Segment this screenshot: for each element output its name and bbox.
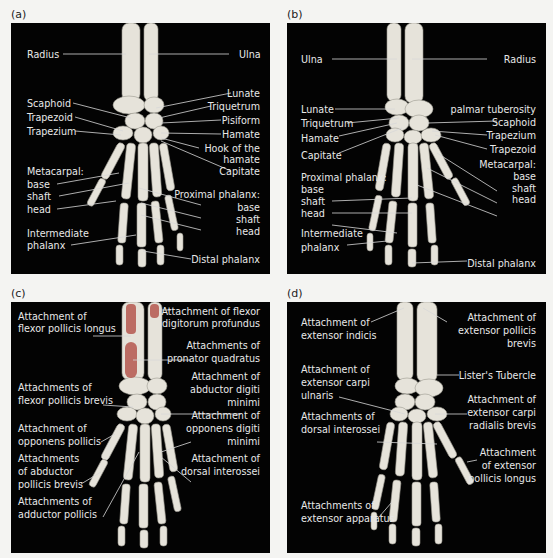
label-di-1: Attachment of	[191, 453, 260, 464]
label-odm-2: opponens digiti	[186, 423, 260, 434]
label-epb-3: brevis	[507, 338, 536, 349]
label-epb-2: extensor pollicis	[458, 325, 536, 336]
label-hook-of-hamate-1: Hook of the	[204, 143, 260, 154]
label-adm-2: abductor digiti	[190, 384, 260, 395]
label-proximal-phalanx: Proximal phalanx:	[174, 189, 260, 200]
label-op-1: Attachment of	[18, 423, 87, 434]
label-metacarpal-head: head	[512, 194, 536, 205]
label-hamate: Hamate	[222, 129, 260, 140]
label-pq-2: pronator quadratus	[167, 353, 260, 364]
label-scaphoid: Scaphoid	[492, 117, 536, 128]
label-ecrb-1: Attachment of	[467, 394, 536, 405]
label-epl-3: pollicis longus	[468, 473, 536, 484]
label-pq-1: Attachments of	[186, 340, 260, 351]
label-proximal-head: head	[236, 226, 260, 237]
label-ei-2: extensor indicis	[301, 330, 376, 341]
label-ecu-3: ulnaris	[301, 390, 333, 401]
label-proximal-head: head	[301, 208, 325, 219]
label-distal-phalanx: Distal phalanx	[191, 254, 260, 265]
label-ecrb-3: radialis brevis	[469, 420, 536, 431]
label-odm-1: Attachment of	[191, 410, 260, 421]
label-trapezium: Trapezium	[27, 126, 76, 137]
label-hook-of-hamate-2: hamate	[223, 154, 260, 165]
label-fpl-2: flexor pollicis longus	[18, 323, 116, 334]
label-ea-1: Attachments of	[301, 500, 375, 511]
label-epb-1: Attachment of	[467, 312, 536, 323]
label-fpl-1: Attachment of	[18, 311, 87, 322]
label-adm-1: Attachment of	[191, 371, 260, 382]
label-intermediate-1: Intermediate	[27, 228, 89, 239]
panel-c-palmar-attachments: Attachment of flexor pollicis longus Att…	[11, 302, 270, 553]
label-di-1: Attachments of	[301, 411, 375, 422]
label-ulna: Ulna	[301, 54, 323, 65]
label-ei-1: Attachment of	[301, 317, 370, 328]
label-metacarpal-base: base	[27, 179, 50, 190]
label-pisiform: Pisiform	[222, 115, 260, 126]
label-proximal-shaft: shaft	[301, 196, 325, 207]
label-ap-1: Attachments of	[18, 496, 92, 507]
label-metacarpal-base: base	[513, 171, 536, 182]
label-proximal-phalanx: Proximal phalanx:	[301, 172, 387, 183]
label-ea-2: extensor apparatus	[301, 513, 395, 524]
label-intermediate-1: Intermediate	[301, 228, 363, 239]
label-apb-2: of abductor	[18, 466, 73, 477]
label-ecrb-2: extensor carpi	[467, 407, 536, 418]
label-odm-3: minimi	[227, 436, 260, 447]
label-metacarpal-shaft: shaft	[512, 183, 536, 194]
label-trapezium: Trapezium	[487, 130, 536, 141]
label-trapezoid: Trapezoid	[27, 112, 73, 123]
label-epl-2: of extensor	[482, 460, 536, 471]
label-hamate: Hamate	[301, 133, 339, 144]
label-op-2: opponens pollicis	[18, 436, 101, 447]
label-ecu-1: Attachment of	[301, 364, 370, 375]
label-apb-1: Attachments	[18, 453, 79, 464]
label-epl-1: Attachment	[480, 447, 536, 458]
label-proximal-shaft: shaft	[236, 214, 260, 225]
label-intermediate-2: phalanx	[27, 240, 65, 251]
label-metacarpal: Metacarpal:	[479, 159, 536, 170]
label-listers-tubercle: Lister's Tubercle	[459, 370, 536, 381]
panel-b-dorsal-bones: Ulna Radius palmar tuberosity Lunate Sca…	[287, 23, 546, 274]
label-fpb-2: flexor pollicis brevis	[18, 395, 113, 406]
label-radius: Radius	[504, 54, 536, 65]
label-fpb-1: Attachments of	[18, 382, 92, 393]
label-ecu-2: extensor carpi	[301, 377, 370, 388]
label-trapezoid: Trapezoid	[490, 144, 536, 155]
label-metacarpal-head: head	[27, 204, 51, 215]
panel-d-dorsal-attachments: Attachment of extensor indicis Attachmen…	[287, 302, 546, 553]
label-triquetrum: Triquetrum	[208, 101, 260, 112]
label-capitate: Capitate	[219, 166, 260, 177]
panel-c-letter: (c)	[11, 287, 26, 300]
label-fdp-1: Attachment of flexor	[161, 306, 260, 317]
label-lunate: Lunate	[227, 88, 260, 99]
label-metacarpal-shaft: shaft	[27, 191, 51, 202]
label-distal-phalanx: Distal phalanx	[467, 258, 536, 269]
label-palmar-tuberosity: palmar tuberosity	[451, 104, 536, 115]
label-intermediate-2: phalanx	[301, 242, 339, 253]
label-scaphoid: Scaphoid	[27, 98, 71, 109]
label-proximal-base: base	[237, 202, 260, 213]
panel-a-palmar-bones: Radius Ulna Scaphoid Trapezoid Trapezium…	[11, 23, 270, 274]
label-di-2: dorsal interossei	[181, 466, 260, 477]
panel-b-letter: (b)	[287, 8, 303, 21]
label-ulna: Ulna	[239, 49, 261, 60]
label-triquetrum: Triquetrum	[301, 118, 353, 129]
panel-a-letter: (a)	[11, 8, 26, 21]
panel-d-letter: (d)	[287, 287, 303, 300]
label-di-2: dorsal interossei	[301, 424, 380, 435]
label-apb-3: pollicis brevis	[18, 479, 83, 490]
label-fdp-2: digitorum profundus	[162, 318, 260, 329]
label-radius: Radius	[27, 49, 59, 60]
label-lunate: Lunate	[301, 104, 334, 115]
label-proximal-base: base	[301, 184, 324, 195]
label-metacarpal: Metacarpal:	[27, 166, 84, 177]
label-adm-3: minimi	[227, 397, 260, 408]
label-capitate: Capitate	[301, 150, 342, 161]
label-ap-2: adductor pollicis	[18, 509, 97, 520]
